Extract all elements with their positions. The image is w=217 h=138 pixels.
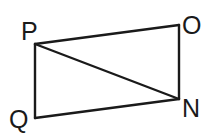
geometry-diagram: P O N Q (0, 0, 217, 138)
vertex-label-O: O (182, 11, 201, 39)
diagonal-PN (35, 44, 179, 99)
edge-NQ (35, 99, 179, 118)
vertex-label-P: P (21, 17, 38, 45)
vertex-label-Q: Q (9, 105, 28, 133)
edge-PO (35, 25, 179, 44)
vertex-label-N: N (182, 94, 200, 122)
